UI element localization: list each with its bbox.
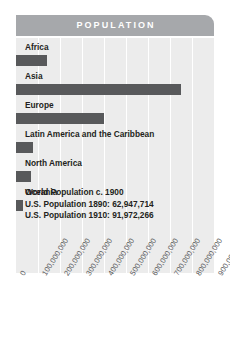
- x-axis-tick-label: 800,000,000: [195, 273, 202, 277]
- x-axis-tick-labels: 0100,000,000200,000,000300,000,000400,00…: [0, 273, 230, 355]
- bar-category-label: Europe: [25, 100, 54, 111]
- x-axis-tick-label: 200,000,000: [63, 273, 70, 277]
- page-title: POPULATION: [74, 21, 155, 30]
- x-axis-tick-label: 900,000,000: [217, 273, 224, 277]
- bar: [16, 113, 104, 124]
- population-bar-chart-figure: POPULATION AfricaAsiaEuropeLatin America…: [0, 0, 230, 355]
- bar-category-label: Asia: [25, 71, 43, 82]
- plot-area: AfricaAsiaEuropeLatin America and the Ca…: [16, 38, 214, 273]
- chart-annotation: World Population c. 1900 U.S. Population…: [25, 187, 154, 222]
- x-axis-tick-label: 400,000,000: [107, 273, 114, 277]
- x-axis-tick-label: 600,000,000: [151, 273, 158, 277]
- bar: [16, 171, 31, 182]
- bar: [16, 200, 23, 211]
- x-axis-tick-label: 100,000,000: [41, 273, 48, 277]
- annotation-line-us-1890: U.S. Population 1890: 62,947,714: [25, 199, 154, 211]
- annotation-line-us-1910: U.S. Population 1910: 91,972,266: [25, 210, 154, 222]
- x-axis-tick-label: 500,000,000: [129, 273, 136, 277]
- annotation-line-world-population: World Population c. 1900: [25, 187, 154, 199]
- bar-category-label: Latin America and the Caribbean: [25, 129, 154, 140]
- bar: [16, 55, 47, 66]
- bar-category-label: Africa: [25, 42, 49, 53]
- x-axis-tick-label: 300,000,000: [85, 273, 92, 277]
- chart-title-banner: POPULATION: [16, 15, 214, 36]
- bar: [16, 142, 33, 153]
- bar-category-label: North America: [25, 158, 82, 169]
- x-axis-tick-label: 0: [19, 273, 26, 277]
- x-axis-tick-label: 700,000,000: [173, 273, 180, 277]
- bar: [16, 84, 181, 95]
